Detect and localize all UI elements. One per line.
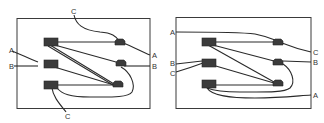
right-diagram: A B C C B A [170,18,319,109]
left-label-right-a: A [152,51,157,60]
wire-block2-node3 [51,66,114,85]
right-label-left-c: C [170,69,176,78]
right-label-left-a: A [170,28,175,37]
wire-node1-c-right [282,43,311,52]
left-block-3 [44,81,58,89]
right-block-3 [202,80,216,88]
left-block-1 [44,38,58,46]
right-label-right-a: A [313,91,318,100]
left-diagram: C A B A B C [9,7,157,121]
left-label-bottom-c: C [65,112,71,121]
right-label-right-c: C [313,48,319,57]
left-label-left-b: B [9,62,14,71]
right-node-3 [273,80,283,86]
left-frame [17,19,150,109]
right-node-1 [273,39,283,45]
left-node-3 [113,81,123,87]
left-label-left-a: A [9,46,14,55]
wire-node2-b-right [283,61,311,62]
right-block-1 [202,38,216,46]
right-block-2 [202,59,216,67]
wire-c-left [176,63,203,72]
right-frame [176,18,311,109]
right-label-left-b: B [170,59,175,68]
left-label-right-b: B [152,62,157,71]
left-node-1 [115,39,125,45]
left-node-2 [116,60,126,66]
wiring-diagrams: C A B A B C [0,0,324,123]
left-block-2 [44,60,58,68]
wire-block3-a-right [207,88,311,98]
right-label-right-b: B [313,58,318,67]
wire-block1-node2 [209,44,274,61]
left-label-top-c: C [71,7,77,16]
wire-b-left [176,61,202,64]
wire-a-left [12,51,38,62]
wire-block1-node2 [51,44,116,62]
wire-block2-node3 [209,64,274,83]
wire-node1-a-right [123,43,150,55]
right-node-2 [273,59,283,65]
wire-block1-node3 [50,45,114,84]
wire-block1-node3 [208,45,274,82]
wire-a-left [176,32,275,40]
